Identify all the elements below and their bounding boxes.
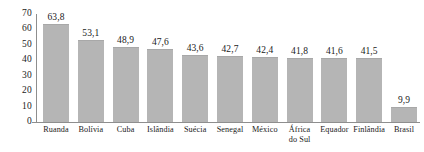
bar-value-label: 42,7 (221, 44, 238, 54)
bar[interactable] (356, 58, 382, 122)
bar-value-label: 43,6 (187, 43, 204, 53)
category-label-line: África (289, 125, 311, 134)
category-label-line: México (252, 125, 278, 134)
bar-chart-figure: 010203040506070 63,853,148,947,643,642,7… (0, 0, 424, 152)
category-label-line: Islândia (147, 125, 174, 134)
bar[interactable] (78, 40, 104, 122)
bar-value-label: 53,1 (82, 28, 99, 38)
bar-group[interactable]: 42,4 (248, 0, 282, 122)
bar-value-label: 47,6 (152, 37, 169, 47)
category-label-line: do Sul (277, 135, 323, 145)
category-label-line: Ruanda (43, 125, 69, 134)
bar-group[interactable]: 63,8 (39, 0, 73, 122)
bar-group[interactable]: 41,5 (352, 0, 386, 122)
bar-group[interactable]: 43,6 (178, 0, 212, 122)
bar-value-label: 41,8 (291, 46, 308, 56)
bar[interactable] (321, 58, 347, 122)
y-axis-tick-label: 0 (2, 117, 32, 127)
bar[interactable] (147, 49, 173, 122)
y-axis-tick-layer: 010203040506070 (0, 0, 32, 152)
bar-group[interactable]: 48,9 (109, 0, 143, 122)
plot-area: 63,853,148,947,643,642,742,441,841,641,5… (37, 0, 420, 122)
category-label-line: Cuba (117, 125, 135, 134)
bar-group[interactable]: 53,1 (74, 0, 108, 122)
bar-group[interactable]: 42,7 (213, 0, 247, 122)
bar-value-label: 63,8 (47, 12, 64, 22)
bar-group[interactable]: 47,6 (143, 0, 177, 122)
category-label-line: Bolívia (78, 125, 103, 134)
bar[interactable] (287, 58, 313, 122)
category-label-line: Equador (320, 125, 348, 134)
bar[interactable] (182, 55, 208, 122)
category-label-line: Suécia (184, 125, 206, 134)
y-axis-tick-label: 60 (2, 24, 32, 34)
bar-value-label: 48,9 (117, 35, 134, 45)
bar-value-label: 42,4 (256, 45, 273, 55)
category-label-line: Brasil (394, 125, 414, 134)
x-axis-line (32, 122, 420, 123)
bar-value-label: 41,6 (326, 46, 343, 56)
bar[interactable] (252, 57, 278, 122)
bar-group[interactable]: 41,6 (317, 0, 351, 122)
bar[interactable] (113, 47, 139, 122)
bar[interactable] (43, 24, 69, 122)
category-label-line: Senegal (217, 125, 244, 134)
bar-value-label: 9,9 (398, 95, 410, 105)
bar-group[interactable]: 9,9 (387, 0, 421, 122)
y-axis-tick-label: 40 (2, 55, 32, 65)
y-axis-tick-label: 70 (2, 9, 32, 19)
x-axis-category-labels: RuandaBolíviaCubaIslândiaSuéciaSenegalMé… (37, 125, 420, 152)
y-axis-tick-label: 20 (2, 86, 32, 96)
y-axis-tick-label: 10 (2, 102, 32, 112)
bar-value-label: 41,5 (361, 46, 378, 56)
y-axis-tick-label: 50 (2, 40, 32, 50)
bar[interactable] (217, 56, 243, 122)
x-axis-category-label: Brasil (381, 125, 424, 135)
y-axis-tick-label: 30 (2, 71, 32, 81)
bar-group[interactable]: 41,8 (283, 0, 317, 122)
bar[interactable] (391, 107, 417, 122)
